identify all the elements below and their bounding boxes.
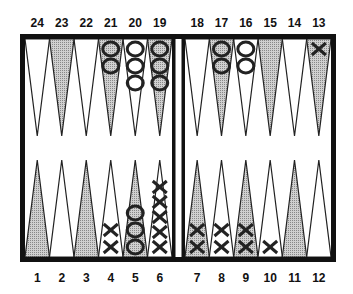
bar-left-edge [172,34,176,262]
backgammon-board [0,0,353,294]
bar-right-edge [182,34,186,262]
